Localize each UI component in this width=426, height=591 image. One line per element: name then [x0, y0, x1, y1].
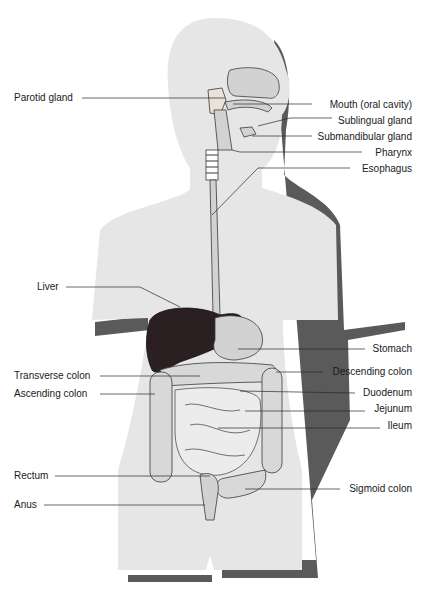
- label-rectum: Rectum: [14, 470, 48, 482]
- label-ascending-colon: Ascending colon: [14, 388, 87, 400]
- label-jejunum: Jejunum: [374, 403, 412, 415]
- label-esophagus: Esophagus: [362, 163, 412, 175]
- label-ileum: Ileum: [388, 420, 412, 432]
- label-sigmoid-colon: Sigmoid colon: [349, 483, 412, 495]
- label-stomach: Stomach: [373, 343, 412, 355]
- label-duodenum: Duodenum: [363, 387, 412, 399]
- trachea: [206, 150, 218, 180]
- label-sublingual-gland: Sublingual gland: [338, 115, 412, 127]
- label-submandibular-gland: Submandibular gland: [317, 131, 412, 143]
- label-descending-colon: Descending colon: [333, 366, 413, 378]
- label-liver: Liver: [37, 281, 59, 293]
- label-anus: Anus: [14, 499, 37, 511]
- digestive-system-figure: [0, 0, 426, 591]
- label-mouth: Mouth (oral cavity): [330, 99, 412, 111]
- label-pharynx: Pharynx: [375, 147, 412, 159]
- label-transverse-colon: Transverse colon: [14, 370, 90, 382]
- label-parotid-gland: Parotid gland: [14, 92, 73, 104]
